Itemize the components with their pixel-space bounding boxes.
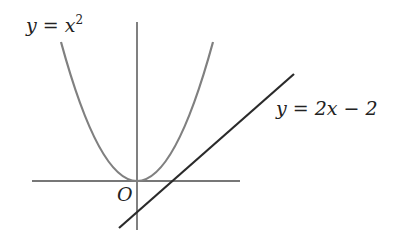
parabola-label-rhs: x [65,14,76,36]
parabola-label-eq: = [37,14,65,36]
line-label-lhs: y [276,97,287,119]
line-curve [119,74,294,228]
line-label-eq: = [287,97,315,119]
parabola-label-lhs: y [26,14,37,36]
line-label-rhs: 2x − 2 [315,97,378,119]
parabola-label-exp: 2 [75,13,83,27]
line-label: y = 2x − 2 [276,97,378,119]
parabola-label: y = x2 [26,14,83,36]
origin-label: O [117,183,133,205]
